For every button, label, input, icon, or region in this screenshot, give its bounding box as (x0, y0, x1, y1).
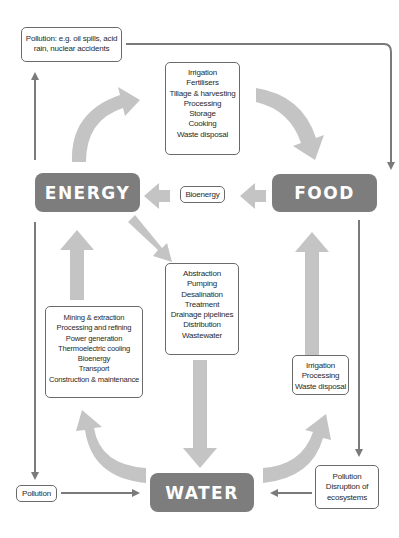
box-line: Bioenergy (46, 354, 142, 364)
box-line: Processing (293, 371, 348, 381)
box-line: Construction & maintenance (46, 375, 142, 385)
node-energy-label: ENERGY (45, 183, 130, 203)
box-line: Waste disposal (166, 130, 239, 140)
box-pollution-left: Pollution (16, 485, 57, 502)
box-line: Irrigation (166, 68, 239, 78)
node-food-label: FOOD (294, 183, 355, 203)
box-line: Storage (166, 109, 239, 119)
box-line: Mining & extraction (46, 313, 142, 323)
arrow-energy-curve-up (72, 87, 140, 162)
box-line: Pollution (17, 489, 56, 499)
box-line: Pollution (316, 472, 378, 482)
box-energy-for-water: Abstraction Pumping Desalination Treatme… (165, 263, 239, 355)
arrow-pollution-top-to-food (104, 44, 392, 163)
arrow-water-processes-to-water (183, 360, 217, 468)
node-food: FOOD (272, 174, 377, 212)
box-line: Drainage pipelines (166, 310, 238, 320)
box-line: Irrigation (293, 361, 348, 371)
box-bioenergy: Bioenergy (180, 186, 225, 203)
box-line: Tillage & harvesting (166, 89, 239, 99)
arrow-energy-to-water-processes (128, 215, 172, 262)
node-water: WATER (150, 473, 254, 512)
box-line: Fertilisers (166, 78, 239, 88)
box-line: Bioenergy (181, 190, 224, 200)
box-line: Pollution: e.g. oil spills, acid (22, 34, 121, 44)
box-line: Desalination (166, 290, 238, 300)
box-energy-for-food: Irrigation Fertilisers Tillage & harvest… (165, 62, 240, 155)
arrow-bioenergy-to-energy (144, 183, 170, 209)
node-energy: ENERGY (35, 173, 140, 212)
arrow-curve-down-to-food (256, 88, 324, 160)
box-line: Processing and refining (46, 323, 142, 333)
box-line: Power generation (46, 334, 142, 344)
box-line: ecosystems (316, 493, 378, 503)
box-line: Distribution (166, 320, 238, 330)
node-water-label: WATER (165, 483, 239, 503)
box-water-for-food: Irrigation Processing Waste disposal (292, 355, 349, 395)
box-line: Abstraction (166, 269, 238, 279)
box-line: Transport (46, 364, 142, 374)
box-line: Disruption of (316, 482, 378, 492)
box-pollution-right: Pollution Disruption of ecosystems (315, 465, 379, 509)
box-line: Waste disposal (293, 382, 348, 392)
box-line: Pumping (166, 279, 238, 289)
box-line: Processing (166, 99, 239, 109)
box-line: Wastewater (166, 331, 238, 341)
arrow-up-to-food (295, 232, 329, 355)
box-pollution-top: Pollution: e.g. oil spills, acid rain, n… (21, 27, 122, 62)
box-water-for-energy: Mining & extraction Processing and refin… (45, 306, 143, 398)
box-line: Thermoelectric cooling (46, 344, 142, 354)
arrow-food-to-bioenergy (240, 183, 266, 209)
box-line: rain, nuclear accidents (22, 44, 121, 54)
arrow-up-to-energy (60, 230, 94, 300)
arrow-water-curve-to-energy (76, 410, 146, 483)
box-line: Treatment (166, 300, 238, 310)
box-line: Cooking (166, 119, 239, 129)
